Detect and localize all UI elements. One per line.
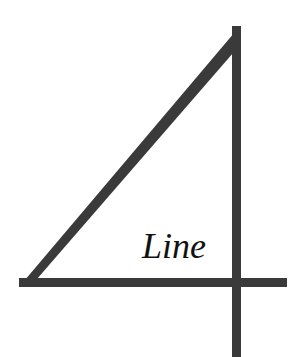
- vertical-stroke: [232, 26, 241, 357]
- diagonal-stroke: [19, 26, 240, 287]
- logo-canvas: Line: [0, 0, 301, 357]
- four-shape-icon: [0, 0, 301, 357]
- horizontal-stroke: [19, 278, 287, 287]
- wordmark-text: Line: [142, 228, 206, 264]
